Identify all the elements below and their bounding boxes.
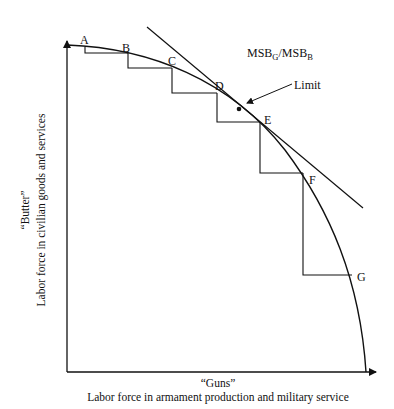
y-axis-label: Labor force in civilian goods and servic… — [35, 113, 48, 306]
point-label-f: F — [309, 173, 316, 187]
point-label-g: G — [357, 270, 366, 284]
point-label-d: D — [215, 79, 224, 93]
limit-label: Limit — [294, 78, 321, 92]
point-label-b: B — [122, 41, 130, 55]
y-axis-title: “Butter” — [19, 191, 31, 230]
x-axis-label: Labor force in armament production and m… — [87, 391, 349, 404]
limit-arrow-icon — [247, 84, 292, 103]
point-label-e: E — [264, 113, 271, 127]
ppf-diagram: A B C D E F G MSBG/MSBB Limit “Butter” L… — [0, 0, 394, 409]
point-label-c: C — [168, 54, 176, 68]
point-label-a: A — [80, 33, 89, 47]
limit-point — [237, 107, 242, 112]
tangent-slope-label: MSBG/MSBB — [247, 46, 313, 62]
x-axis-title: “Guns” — [201, 377, 236, 389]
